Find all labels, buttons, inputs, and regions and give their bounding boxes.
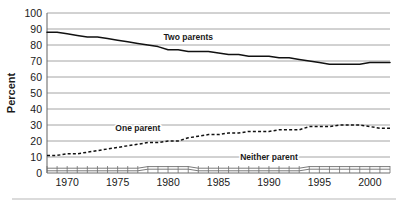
series-label: Neither parent xyxy=(240,152,298,162)
y-axis-tick-label: 30 xyxy=(30,119,42,131)
series-label: One parent xyxy=(115,123,160,133)
x-axis-tick-label: 1995 xyxy=(308,176,332,188)
y-axis-tick-label: 100 xyxy=(24,7,42,19)
y-axis-title: Percent xyxy=(5,72,17,113)
y-axis-tick-label: 60 xyxy=(30,71,42,83)
x-axis-tick-label: 1985 xyxy=(207,176,231,188)
x-axis-tick-label: 2000 xyxy=(358,176,382,188)
x-axis-tick-label: 1975 xyxy=(106,176,130,188)
y-axis-tick-label: 20 xyxy=(30,135,42,147)
y-axis-tick-label: 70 xyxy=(30,55,42,67)
x-axis-tick-label: 1990 xyxy=(257,176,281,188)
y-axis-tick-label: 10 xyxy=(30,151,42,163)
y-axis-tick-label: 40 xyxy=(30,103,42,115)
y-axis-tick-label: 90 xyxy=(30,23,42,35)
x-axis-tick-label: 1970 xyxy=(55,176,79,188)
line-chart: 0102030405060708090100 19701975198019851… xyxy=(0,0,402,209)
y-axis-tick-label: 50 xyxy=(30,87,42,99)
series-label: Two parents xyxy=(164,32,214,42)
y-axis-tick-label: 0 xyxy=(36,167,42,179)
y-axis-tick-label: 80 xyxy=(30,39,42,51)
x-axis-tick-label: 1980 xyxy=(156,176,180,188)
